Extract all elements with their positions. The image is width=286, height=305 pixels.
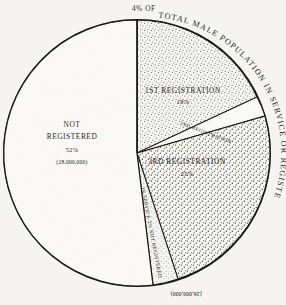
bottom-note-group: (26,000,000) <box>170 290 201 297</box>
label-3rd-registration: 3RD REGISTRATION <box>148 157 226 166</box>
figure-canvas: 4% OF TOTAL MALE POPULATION IN SERVICE O… <box>0 0 286 305</box>
bottom-note: (26,000,000) <box>170 290 201 297</box>
percent-1st-registration: 18% <box>177 98 190 105</box>
label-1st-registration: 1ST REGISTRATION <box>145 86 221 95</box>
count-not-registered: (28,000,000) <box>56 159 87 166</box>
label-not-registered-line2: REGISTERED <box>47 132 98 141</box>
percent-not-registered: 52% <box>66 146 79 153</box>
caption-top: 4% OF <box>132 5 156 13</box>
percent-3rd-registration: 25% <box>181 170 194 177</box>
label-not-registered-line1: NOT <box>64 120 81 129</box>
pie-chart-figure: 4% OF TOTAL MALE POPULATION IN SERVICE O… <box>0 0 286 305</box>
slice-not-registered[interactable] <box>4 20 153 286</box>
